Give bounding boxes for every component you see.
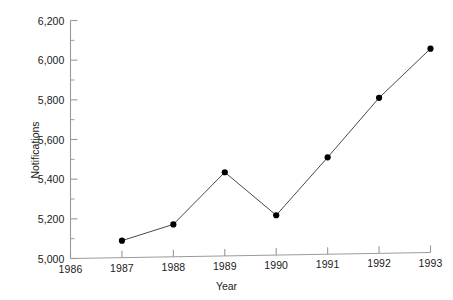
x-tick-label: 1987 xyxy=(110,262,134,274)
data-point-marker xyxy=(273,212,279,218)
data-point-markers xyxy=(119,46,434,244)
data-point-marker xyxy=(119,238,125,244)
axes xyxy=(71,21,431,259)
x-axis-title: Year xyxy=(0,280,453,292)
y-tick-label: 5,800 xyxy=(22,94,65,106)
axis-ticks xyxy=(71,21,431,259)
line-chart: 5,0005,2005,4005,6005,8006,0006,200 1986… xyxy=(0,0,453,300)
data-point-marker xyxy=(170,221,176,227)
y-axis-title: Notifications xyxy=(29,121,41,178)
x-tick-label: 1992 xyxy=(367,257,391,269)
data-point-marker xyxy=(427,46,433,52)
plot-area xyxy=(0,0,453,300)
x-tick-label: 1990 xyxy=(264,259,288,271)
y-tick-label: 5,200 xyxy=(22,213,65,225)
x-tick-label: 1993 xyxy=(419,257,443,269)
data-point-marker xyxy=(376,95,382,101)
data-point-marker xyxy=(222,169,228,175)
x-tick-label: 1988 xyxy=(162,261,186,273)
x-tick-label: 1986 xyxy=(59,263,83,275)
x-tick-label: 1989 xyxy=(213,260,237,272)
data-series-line xyxy=(122,49,431,241)
x-tick-label: 1991 xyxy=(316,258,340,270)
series-line-notifications xyxy=(122,49,431,241)
y-tick-label: 6,000 xyxy=(22,54,65,66)
y-tick-label: 6,200 xyxy=(22,15,65,27)
data-point-marker xyxy=(325,154,331,160)
